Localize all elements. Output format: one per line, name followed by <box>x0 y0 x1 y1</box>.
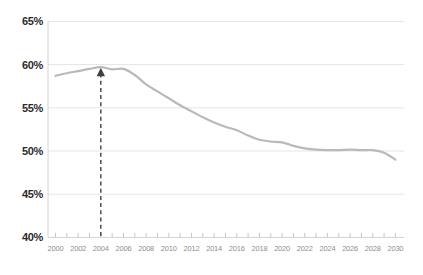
chart-canvas: 65%60%55%50%45%40%2000200220042006200820… <box>0 0 423 275</box>
x-axis-tick-label: 2028 <box>365 244 381 253</box>
x-axis-tick-label: 2002 <box>70 244 86 253</box>
y-axis-tick-label: 45% <box>22 188 44 200</box>
y-axis-tick-label: 50% <box>22 145 44 157</box>
x-axis-tick-label: 2010 <box>161 244 177 253</box>
line-chart: 65%60%55%50%45%40%2000200220042006200820… <box>0 0 423 275</box>
x-axis-tick-label: 2026 <box>342 244 358 253</box>
y-axis-tick-label: 40% <box>22 231 44 243</box>
y-axis-tick-label: 55% <box>22 102 44 114</box>
x-axis-tick-label: 2000 <box>48 244 64 253</box>
x-axis-tick-label: 2018 <box>251 244 267 253</box>
x-axis-tick-label: 2012 <box>184 244 200 253</box>
x-axis-tick-label: 2020 <box>274 244 290 253</box>
y-axis-tick-label: 60% <box>22 59 44 71</box>
x-axis-tick-label: 2008 <box>138 244 154 253</box>
y-axis-tick-label: 65% <box>22 15 44 27</box>
trend-curve <box>56 67 396 159</box>
x-axis-tick-label: 2024 <box>319 244 335 253</box>
x-axis-tick-label: 2030 <box>387 244 403 253</box>
x-axis-tick-label: 2022 <box>297 244 313 253</box>
annotation-arrowhead-up-icon <box>97 68 105 77</box>
x-axis-tick-label: 2016 <box>229 244 245 253</box>
x-axis-tick-label: 2004 <box>93 244 109 253</box>
x-axis-tick-label: 2006 <box>116 244 132 253</box>
x-axis-tick-label: 2014 <box>206 244 222 253</box>
